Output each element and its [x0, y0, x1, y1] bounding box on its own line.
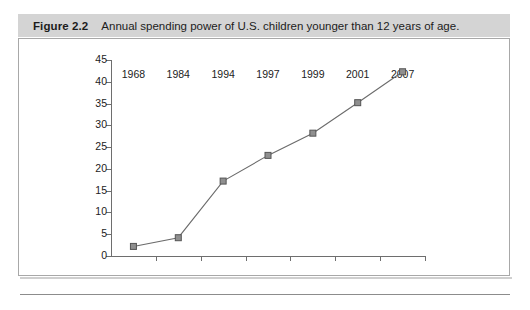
y-tick-label: 25: [95, 140, 107, 152]
figure-caption-text: Annual spending power of U.S. children y…: [101, 20, 459, 32]
y-tick-label: 20: [95, 162, 107, 174]
x-tick-mark: [246, 256, 247, 261]
figure-caption-bar: Figure 2.2 Annual spending power of U.S.…: [18, 14, 510, 37]
x-axis-line: [111, 256, 426, 257]
x-tick-mark: [425, 256, 426, 261]
panel-shadow: [20, 277, 512, 279]
footer-rule: [20, 294, 510, 295]
line-series: [111, 60, 425, 256]
data-point-marker: [175, 235, 181, 241]
x-tick-mark: [201, 256, 202, 261]
series-line: [133, 72, 402, 247]
data-point-marker: [355, 100, 361, 106]
x-tick-mark: [156, 256, 157, 261]
figure-label: Figure 2.2: [33, 20, 88, 32]
y-tick-label: 40: [95, 75, 107, 87]
y-tick-label: 15: [95, 184, 107, 196]
y-tick-label: 30: [95, 118, 107, 130]
x-tick-mark: [335, 256, 336, 261]
y-tick-label: 45: [95, 53, 107, 65]
y-tick-label: 5: [101, 227, 107, 239]
data-point-marker: [130, 243, 136, 249]
data-point-marker: [265, 152, 271, 158]
y-tick-label: 35: [95, 97, 107, 109]
x-tick-mark: [380, 256, 381, 261]
data-point-marker: [220, 178, 226, 184]
data-point-marker: [310, 130, 316, 136]
x-tick-mark: [290, 256, 291, 261]
data-point-marker: [400, 69, 406, 75]
plot-area: 051015202530354045 196819841994199719992…: [111, 60, 425, 256]
y-tick-label: 10: [95, 205, 107, 217]
y-tick-label: 0: [101, 249, 107, 261]
